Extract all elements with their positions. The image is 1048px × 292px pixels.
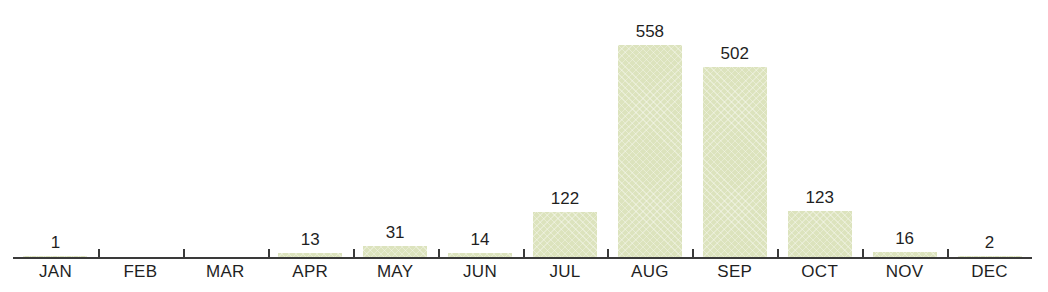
bar-value-label-jun: 14 [471, 231, 490, 248]
bar-group: 1 [13, 14, 98, 258]
bar-value-label-sep: 502 [721, 45, 749, 62]
x-axis-tick [607, 249, 609, 258]
bar-group: 2 [947, 14, 1032, 258]
bar-group: 123 [777, 14, 862, 258]
bar-value-label-jul: 122 [551, 190, 579, 207]
bar-group: 558 [607, 14, 692, 258]
bar-jul[interactable] [533, 212, 597, 259]
bar-group: 14 [438, 14, 523, 258]
bar-value-label-aug: 558 [636, 23, 664, 40]
bar-sep[interactable] [703, 67, 767, 258]
bar-group [183, 14, 268, 258]
x-axis-tick [438, 249, 440, 258]
bar-group: 13 [268, 14, 353, 258]
x-axis-tick [947, 249, 949, 258]
x-axis-tick [183, 249, 185, 258]
x-axis-tick [777, 249, 779, 258]
x-axis-label-dec: DEC [971, 263, 1008, 282]
bar-group: 31 [353, 14, 438, 258]
bar-value-label-apr: 13 [301, 231, 320, 248]
x-axis-label-jun: JUN [463, 263, 497, 282]
x-axis-tick [862, 249, 864, 258]
bar-group: 122 [523, 14, 608, 258]
bar-value-label-may: 31 [386, 224, 405, 241]
x-axis-tick [692, 249, 694, 258]
x-axis-tick [523, 249, 525, 258]
x-axis-label-jan: JAN [39, 263, 72, 282]
x-axis-label-sep: SEP [717, 263, 752, 282]
bar-group: 502 [692, 14, 777, 258]
bar-value-label-oct: 123 [806, 189, 834, 206]
x-axis-label-feb: FEB [123, 263, 157, 282]
x-axis-label-apr: APR [292, 263, 328, 282]
x-axis-tick [268, 249, 270, 258]
plot-area: 1133114122558502123162 [13, 14, 1032, 258]
x-axis-label-aug: AUG [631, 263, 669, 282]
x-axis-tick [98, 249, 100, 258]
x-axis-label-mar: MAR [206, 263, 245, 282]
bar-aug[interactable] [618, 45, 682, 258]
bar-value-label-nov: 16 [895, 230, 914, 247]
bar-group: 16 [862, 14, 947, 258]
x-axis-label-jul: JUL [549, 263, 580, 282]
bar-oct[interactable] [788, 211, 852, 258]
bar-value-label-jan: 1 [51, 234, 60, 251]
x-axis-label-nov: NOV [886, 263, 924, 282]
bar-value-label-dec: 2 [985, 234, 994, 251]
bar-group [98, 14, 183, 258]
bar-chart: 1133114122558502123162 JANFEBMARAPRMAYJU… [0, 0, 1048, 292]
x-axis-tick [353, 249, 355, 258]
x-axis-label-oct: OCT [801, 263, 838, 282]
x-axis-label-may: MAY [377, 263, 413, 282]
